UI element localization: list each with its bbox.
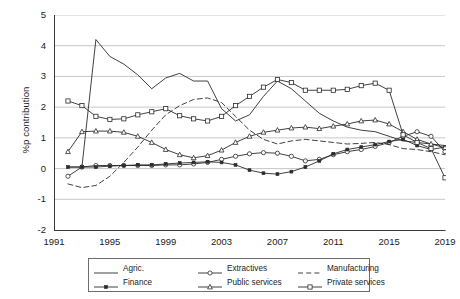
data-point-marker — [429, 134, 433, 138]
data-point-marker — [332, 152, 335, 155]
x-tick-label: 2019 — [425, 236, 460, 247]
data-point-marker — [122, 117, 126, 121]
y-tick-label: 4 — [24, 40, 46, 51]
data-point-marker — [80, 104, 84, 108]
data-point-marker — [359, 84, 363, 88]
data-point-marker — [164, 107, 168, 111]
legend-label: Public services — [227, 278, 282, 288]
data-point-marker — [108, 117, 112, 121]
data-point-marker — [178, 162, 181, 165]
data-point-marker — [443, 176, 446, 180]
data-point-marker — [66, 99, 70, 103]
y-tick-label: -1 — [24, 193, 46, 204]
data-point-marker — [303, 159, 307, 163]
data-point-marker — [318, 159, 321, 162]
data-point-marker — [220, 161, 223, 164]
chart-legend: Agric.ExtractivesManufacturingFinancePub… — [88, 258, 370, 292]
data-point-marker — [206, 160, 209, 163]
data-point-marker — [290, 170, 293, 173]
y-tick-label: 2 — [24, 101, 46, 112]
x-tick-label: 1999 — [146, 236, 186, 247]
x-tick-label: 1995 — [90, 236, 130, 247]
data-point-marker — [415, 140, 419, 144]
data-point-marker — [94, 114, 98, 118]
legend-label: Manufacturing — [327, 264, 379, 274]
data-point-marker — [345, 87, 349, 91]
data-point-marker — [105, 286, 108, 289]
data-point-marker — [150, 110, 154, 114]
data-point-marker — [136, 113, 140, 117]
series-line — [68, 132, 445, 177]
data-point-marker — [415, 130, 419, 134]
data-point-marker — [94, 166, 97, 169]
data-point-marker — [66, 174, 70, 178]
data-point-marker — [303, 88, 307, 92]
data-point-marker — [136, 163, 139, 166]
data-point-marker — [262, 172, 265, 175]
y-tick-label: -2 — [24, 224, 46, 235]
data-point-marker — [289, 80, 293, 84]
data-point-marker — [219, 114, 223, 118]
data-point-marker — [429, 147, 433, 151]
legend-item[interactable]: Private services — [297, 278, 389, 288]
data-point-marker — [164, 163, 167, 166]
data-point-marker — [178, 114, 182, 118]
legend-label: Finance — [123, 278, 152, 288]
x-tick-label: 2007 — [257, 236, 297, 247]
plot-area — [54, 15, 445, 230]
legend-label: Extractives — [227, 264, 267, 274]
data-point-marker — [261, 85, 265, 89]
data-point-marker — [150, 163, 153, 166]
legend-item[interactable]: Public services — [197, 278, 297, 288]
data-point-marker — [247, 152, 251, 156]
x-tick-label: 2003 — [202, 236, 242, 247]
data-point-marker — [443, 150, 446, 154]
x-tick-label: 2015 — [369, 236, 409, 247]
legend-item[interactable]: Manufacturing — [297, 264, 389, 274]
data-point-marker — [275, 77, 279, 81]
legend-item[interactable]: Agric. — [93, 264, 197, 274]
data-point-marker — [192, 161, 195, 164]
y-tick-label: 1 — [24, 132, 46, 143]
data-point-marker — [233, 104, 237, 108]
legend-label: Agric. — [123, 264, 144, 274]
data-point-marker — [219, 148, 224, 153]
y-tick-label: 3 — [24, 70, 46, 81]
y-tick-label: 5 — [24, 9, 46, 20]
series-extractives — [66, 130, 446, 179]
data-point-marker — [261, 151, 265, 155]
data-point-marker — [276, 173, 279, 176]
data-point-marker — [208, 271, 212, 275]
legend-item[interactable]: Finance — [93, 278, 197, 288]
data-point-marker — [81, 166, 84, 169]
data-point-marker — [373, 117, 378, 122]
data-point-marker — [233, 154, 237, 158]
data-point-marker — [304, 166, 307, 169]
data-point-marker — [234, 163, 237, 166]
series-agric — [68, 40, 445, 167]
legend-key-dot-icon — [93, 278, 119, 288]
legend-key-square-icon — [297, 278, 323, 288]
data-point-marker — [248, 169, 251, 172]
legend-key-none-icon — [93, 264, 119, 274]
data-point-marker — [275, 151, 279, 155]
data-point-marker — [108, 165, 111, 168]
data-point-marker — [360, 146, 363, 149]
x-tick-label: 2011 — [313, 236, 353, 247]
data-point-marker — [346, 148, 349, 151]
legend-key-triangle-icon — [197, 278, 223, 288]
legend-label: Private services — [327, 278, 385, 288]
series-line — [68, 80, 445, 178]
data-point-marker — [122, 164, 125, 167]
data-point-marker — [308, 285, 312, 289]
data-point-marker — [402, 138, 405, 141]
data-point-marker — [206, 119, 210, 123]
data-point-marker — [192, 117, 196, 121]
data-point-marker — [289, 154, 293, 158]
y-tick-label: 0 — [24, 163, 46, 174]
legend-key-none-icon — [297, 264, 323, 274]
data-point-marker — [387, 88, 391, 92]
legend-item[interactable]: Extractives — [197, 264, 297, 274]
x-tick-label: 1991 — [34, 236, 74, 247]
